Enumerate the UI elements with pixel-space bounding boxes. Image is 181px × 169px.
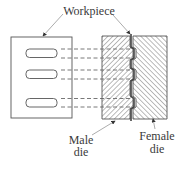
female-die-arrow <box>153 119 155 129</box>
workpiece-arrow-right <box>113 15 130 34</box>
slot-3 <box>26 99 57 108</box>
male-die-label-line2: die <box>66 146 96 158</box>
male-die-arrow <box>92 121 115 135</box>
workpiece-arrow-left <box>43 14 63 36</box>
slot-2 <box>26 70 57 79</box>
female-die <box>133 36 167 119</box>
slot-1 <box>26 49 57 58</box>
female-die-label-line2: die <box>138 143 176 155</box>
workpiece-label: Workpiece <box>62 5 116 17</box>
female-die-label-line1: Female <box>138 130 176 142</box>
male-die <box>102 36 133 119</box>
